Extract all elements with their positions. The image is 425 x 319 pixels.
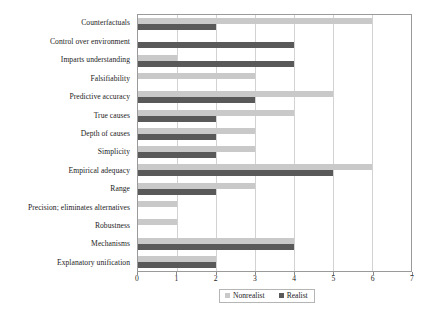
- category-tick: [137, 33, 138, 34]
- category-label: Mechanisms: [0, 235, 134, 253]
- category-tick: [137, 198, 138, 199]
- x-tick-label: 3: [253, 275, 257, 283]
- bar-realist: [138, 42, 294, 48]
- bar-group: [138, 33, 411, 51]
- bar-group: [138, 198, 411, 216]
- category-tick: [137, 106, 138, 107]
- x-tick-label: 1: [174, 275, 178, 283]
- bar-nonrealist: [138, 219, 177, 225]
- bar-group: [138, 52, 411, 70]
- category-label: Falsifiability: [0, 69, 134, 87]
- bar-nonrealist: [138, 201, 177, 207]
- category-tick: [137, 88, 138, 89]
- bar-nonrealist: [138, 73, 255, 79]
- category-tick: [137, 180, 138, 181]
- category-tick: [137, 52, 138, 53]
- bar-group: [138, 216, 411, 234]
- plot-area: [137, 14, 412, 272]
- bar-series-container: [138, 15, 411, 271]
- bar-group: [138, 15, 411, 33]
- category-label: Explanatory unification: [0, 253, 134, 271]
- bar-realist: [138, 97, 255, 103]
- category-label: Imparts understanding: [0, 51, 134, 69]
- bar-group: [138, 106, 411, 124]
- x-tick-label: 0: [135, 275, 139, 283]
- category-label: Counterfactuals: [0, 14, 134, 32]
- category-label: Robustness: [0, 217, 134, 235]
- legend-entry-realist[interactable]: Realist: [279, 292, 308, 300]
- x-tick-label: 7: [410, 275, 414, 283]
- bar-group: [138, 88, 411, 106]
- bar-group: [138, 143, 411, 161]
- category-label: Simplicity: [0, 143, 134, 161]
- bar-chart: CounterfactualsControl over environmentI…: [0, 0, 425, 319]
- category-tick: [137, 125, 138, 126]
- bar-realist: [138, 189, 216, 195]
- bar-group: [138, 70, 411, 88]
- x-tick-label: 6: [371, 275, 375, 283]
- bar-realist: [138, 24, 216, 30]
- bar-group: [138, 161, 411, 179]
- legend-label: Nonrealist: [233, 292, 265, 300]
- bar-realist: [138, 170, 333, 176]
- bar-group: [138, 125, 411, 143]
- chart-legend: NonrealistRealist: [219, 289, 315, 303]
- x-tick-label: 5: [332, 275, 336, 283]
- bar-realist: [138, 61, 294, 67]
- x-tick-label: 4: [292, 275, 296, 283]
- category-tick: [137, 253, 138, 254]
- legend-label: Realist: [287, 292, 308, 300]
- category-tick: [137, 161, 138, 162]
- bar-realist: [138, 262, 216, 268]
- category-tick: [137, 234, 138, 235]
- bar-group: [138, 234, 411, 252]
- category-tick: [137, 70, 138, 71]
- bar-group: [138, 253, 411, 271]
- category-tick: [137, 15, 138, 16]
- bar-realist: [138, 116, 216, 122]
- category-tick: [137, 143, 138, 144]
- bar-realist: [138, 152, 216, 158]
- x-tick-label: 2: [214, 275, 218, 283]
- legend-entry-nonrealist[interactable]: Nonrealist: [225, 292, 265, 300]
- category-label: Precision; eliminates alternatives: [0, 198, 134, 216]
- category-label: Range: [0, 180, 134, 198]
- nonrealist-swatch-icon: [225, 293, 230, 298]
- value-axis: 01234567: [137, 272, 412, 288]
- bar-realist: [138, 244, 294, 250]
- category-label: Depth of causes: [0, 125, 134, 143]
- category-axis: CounterfactualsControl over environmentI…: [0, 14, 134, 272]
- category-label: Empirical adequacy: [0, 161, 134, 179]
- bar-realist: [138, 134, 216, 140]
- category-label: Control over environment: [0, 32, 134, 50]
- category-tick: [137, 216, 138, 217]
- category-label: True causes: [0, 106, 134, 124]
- category-label: Predictive accuracy: [0, 88, 134, 106]
- bar-group: [138, 180, 411, 198]
- realist-swatch-icon: [279, 293, 284, 298]
